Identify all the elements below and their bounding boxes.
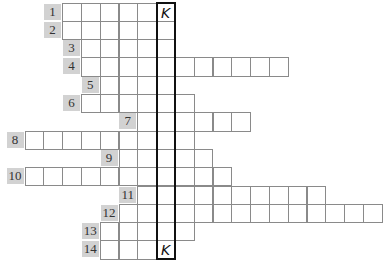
- grid-cell-r3-c6[interactable]: [137, 39, 157, 58]
- grid-cell-r10-c8[interactable]: [175, 167, 195, 186]
- grid-cell-r12-c15[interactable]: [307, 204, 327, 223]
- grid-cell-r2-c3[interactable]: [81, 21, 101, 40]
- grid-cell-r9-c7[interactable]: [156, 149, 176, 168]
- grid-cell-r7-c11[interactable]: [231, 112, 251, 131]
- grid-cell-r13-c7[interactable]: [156, 222, 176, 241]
- grid-cell-r8-c5[interactable]: [119, 131, 139, 150]
- grid-cell-r9-c8[interactable]: [175, 149, 195, 168]
- grid-cell-r10-c7[interactable]: [156, 167, 176, 186]
- grid-cell-r7-c9[interactable]: [194, 112, 214, 131]
- grid-cell-r13-c8[interactable]: [175, 222, 195, 241]
- grid-cell-r12-c9[interactable]: [194, 204, 214, 223]
- grid-cell-r5-c5[interactable]: [119, 76, 139, 95]
- grid-cell-r10-c5[interactable]: [119, 167, 139, 186]
- grid-cell-r10-c0[interactable]: [25, 167, 45, 186]
- grid-cell-r10-c4[interactable]: [100, 167, 120, 186]
- grid-cell-r13-c6[interactable]: [137, 222, 157, 241]
- grid-cell-r5-c4[interactable]: [100, 76, 120, 95]
- grid-cell-r4-c3[interactable]: [81, 57, 101, 76]
- grid-cell-r4-c11[interactable]: [231, 57, 251, 76]
- grid-cell-r8-c2[interactable]: [62, 131, 82, 150]
- grid-cell-r4-c4[interactable]: [100, 57, 120, 76]
- grid-cell-r12-c10[interactable]: [213, 204, 233, 223]
- grid-cell-r2-c4[interactable]: [100, 21, 120, 40]
- grid-cell-r12-c14[interactable]: [288, 204, 308, 223]
- grid-cell-r5-c7[interactable]: [156, 76, 176, 95]
- grid-cell-r8-c0[interactable]: [25, 131, 45, 150]
- grid-cell-r10-c9[interactable]: [194, 167, 214, 186]
- grid-cell-r9-c5[interactable]: [119, 149, 139, 168]
- grid-cell-r4-c5[interactable]: [119, 57, 139, 76]
- grid-cell-r6-c5[interactable]: [119, 94, 139, 113]
- grid-cell-r11-c7[interactable]: [156, 186, 176, 205]
- grid-cell-r4-c13[interactable]: [269, 57, 289, 76]
- grid-cell-r10-c10[interactable]: [213, 167, 233, 186]
- grid-cell-r1-c3[interactable]: [81, 3, 101, 22]
- grid-cell-r12-c18[interactable]: [363, 204, 383, 223]
- grid-cell-r10-c1[interactable]: [43, 167, 63, 186]
- grid-cell-r9-c6[interactable]: [137, 149, 157, 168]
- grid-cell-r4-c8[interactable]: [175, 57, 195, 76]
- grid-cell-r11-c14[interactable]: [288, 186, 308, 205]
- grid-cell-r5-c6[interactable]: [137, 76, 157, 95]
- grid-cell-r11-c11[interactable]: [231, 186, 251, 205]
- grid-cell-r6-c8[interactable]: [175, 94, 195, 113]
- grid-cell-r7-c6[interactable]: [137, 112, 157, 131]
- grid-cell-r12-c16[interactable]: [325, 204, 345, 223]
- grid-cell-r3-c3[interactable]: [81, 39, 101, 58]
- grid-cell-r6-c4[interactable]: [100, 94, 120, 113]
- grid-cell-r4-c6[interactable]: [137, 57, 157, 76]
- grid-cell-r12-c13[interactable]: [269, 204, 289, 223]
- grid-cell-r8-c1[interactable]: [43, 131, 63, 150]
- grid-cell-r1-c6[interactable]: [137, 3, 157, 22]
- grid-cell-r12-c8[interactable]: [175, 204, 195, 223]
- grid-cell-r3-c7[interactable]: [156, 39, 176, 58]
- grid-cell-r14-c4[interactable]: [100, 240, 120, 259]
- grid-cell-r6-c7[interactable]: [156, 94, 176, 113]
- grid-cell-r4-c7[interactable]: [156, 57, 176, 76]
- grid-cell-r2-c5[interactable]: [119, 21, 139, 40]
- grid-cell-r13-c4[interactable]: [100, 222, 120, 241]
- grid-cell-r4-c9[interactable]: [194, 57, 214, 76]
- grid-cell-r2-c7[interactable]: [156, 21, 176, 40]
- grid-cell-r2-c2[interactable]: [62, 21, 82, 40]
- grid-cell-r12-c5[interactable]: [119, 204, 139, 223]
- grid-cell-r6-c6[interactable]: [137, 94, 157, 113]
- grid-cell-r1-c5[interactable]: [119, 3, 139, 22]
- grid-cell-r11-c6[interactable]: [137, 186, 157, 205]
- grid-cell-r8-c7[interactable]: [156, 131, 176, 150]
- grid-cell-r1-c2[interactable]: [62, 3, 82, 22]
- grid-cell-r11-c8[interactable]: [175, 186, 195, 205]
- grid-cell-r8-c4[interactable]: [100, 131, 120, 150]
- grid-cell-r12-c11[interactable]: [231, 204, 251, 223]
- grid-cell-r10-c6[interactable]: [137, 167, 157, 186]
- grid-cell-r4-c12[interactable]: [250, 57, 270, 76]
- grid-cell-r8-c3[interactable]: [81, 131, 101, 150]
- grid-cell-r7-c7[interactable]: [156, 112, 176, 131]
- grid-cell-r10-c2[interactable]: [62, 167, 82, 186]
- grid-cell-r11-c15[interactable]: [307, 186, 327, 205]
- grid-cell-r6-c3[interactable]: [81, 94, 101, 113]
- grid-cell-r3-c4[interactable]: [100, 39, 120, 58]
- grid-cell-r8-c8[interactable]: [175, 131, 195, 150]
- grid-cell-r7-c8[interactable]: [175, 112, 195, 131]
- grid-cell-r4-c10[interactable]: [213, 57, 233, 76]
- grid-cell-r11-c13[interactable]: [269, 186, 289, 205]
- grid-cell-r1-c4[interactable]: [100, 3, 120, 22]
- grid-cell-r10-c3[interactable]: [81, 167, 101, 186]
- grid-cell-r8-c6[interactable]: [137, 131, 157, 150]
- grid-cell-r11-c9[interactable]: [194, 186, 214, 205]
- grid-cell-r14-c6[interactable]: [137, 240, 157, 259]
- grid-cell-r12-c7[interactable]: [156, 204, 176, 223]
- grid-cell-r14-c5[interactable]: [119, 240, 139, 259]
- grid-cell-r13-c5[interactable]: [119, 222, 139, 241]
- grid-cell-r12-c17[interactable]: [344, 204, 364, 223]
- grid-cell-r3-c5[interactable]: [119, 39, 139, 58]
- grid-cell-r12-c6[interactable]: [137, 204, 157, 223]
- grid-cell-r2-c6[interactable]: [137, 21, 157, 40]
- grid-cell-r9-c9[interactable]: [194, 149, 214, 168]
- grid-cell-r11-c12[interactable]: [250, 186, 270, 205]
- grid-cell-r11-c10[interactable]: [213, 186, 233, 205]
- grid-cell-r12-c12[interactable]: [250, 204, 270, 223]
- grid-cell-r7-c10[interactable]: [213, 112, 233, 131]
